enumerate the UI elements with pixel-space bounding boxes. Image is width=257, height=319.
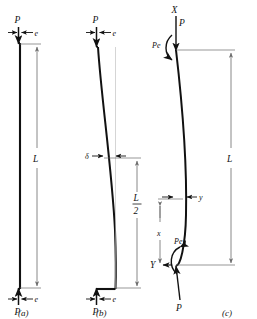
length-label-a: L <box>32 154 38 164</box>
load-label-top-a: P <box>14 15 21 25</box>
column-member-b <box>98 47 116 289</box>
axis-label-y-c: Y <box>150 260 157 270</box>
moment-label-bottom-c: Pe <box>173 237 183 246</box>
moment-label-top-c: Pe <box>151 41 161 50</box>
moment-arc-bottom-c <box>171 247 180 274</box>
load-label-bottom-c: P <box>175 303 182 313</box>
engineering-figure: P e L P e (a) P e <box>0 0 257 319</box>
axis-label-x-c: X <box>171 5 179 15</box>
ecc-label-bottom-b: e <box>113 295 117 304</box>
ecc-label-top-a: e <box>35 29 39 38</box>
caption-a: (a) <box>18 308 29 318</box>
length-label-c: L <box>226 154 232 164</box>
load-label-top-b: P <box>92 15 99 25</box>
load-arrow-bottom-c <box>176 266 180 300</box>
deflection-label-b: δ <box>85 152 89 161</box>
halflength-numerator-b: L <box>133 193 139 203</box>
panel-b: P e δ L 2 P e (b) <box>85 15 142 318</box>
ecc-label-bottom-a: e <box>35 295 39 304</box>
caption-c: (c) <box>222 308 232 318</box>
distance-label-x-c: x <box>156 229 161 238</box>
figure-root: P e L P e (a) P e <box>0 0 257 319</box>
panel-c: X P Pe L y x Y Pe P (c) <box>150 5 235 318</box>
panel-a: P e L P e (a) <box>8 15 41 318</box>
column-member-c <box>176 50 186 265</box>
ecc-label-top-b: e <box>113 29 117 38</box>
halflength-denominator-b: 2 <box>134 206 139 216</box>
caption-b: (b) <box>96 308 107 318</box>
moment-arc-top-c <box>166 35 172 60</box>
deflection-label-y-c: y <box>198 193 203 202</box>
load-label-top-c: P <box>178 18 185 28</box>
